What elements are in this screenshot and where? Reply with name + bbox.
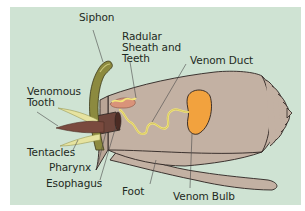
label-esophagus: Esophagus (46, 178, 102, 189)
label-tentacles: Tentacles (27, 147, 75, 158)
tentacle-lower (60, 134, 100, 146)
label-radular-sheath: Radular Sheath and Teeth (122, 31, 181, 64)
venomous-tooth (56, 121, 104, 133)
label-venom-bulb: Venom Bulb (173, 191, 235, 202)
label-siphon: Siphon (79, 12, 114, 23)
label-venomous-tooth: Venomous Tooth (27, 86, 81, 108)
label-foot: Foot (122, 186, 144, 197)
label-pharynx: Pharynx (49, 162, 91, 173)
label-venom-duct: Venom Duct (190, 55, 253, 66)
